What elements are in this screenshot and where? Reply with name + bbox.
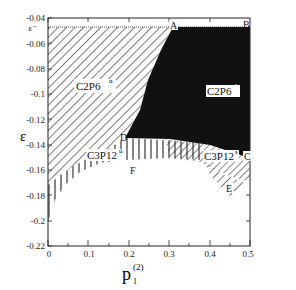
svg-text:-0.12: -0.12 [26, 115, 45, 125]
svg-text:-0.06: -0.06 [26, 39, 45, 49]
svg-text:0.4: 0.4 [204, 249, 216, 259]
svg-text:p: p [122, 264, 131, 284]
svg-text:-0.04: -0.04 [26, 13, 45, 23]
svg-text:(2): (2) [133, 262, 144, 272]
svg-text:-0.1: -0.1 [31, 89, 45, 99]
svg-text:0.2: 0.2 [123, 249, 134, 259]
svg-text:-0.2: -0.2 [31, 216, 45, 226]
svg-text:-0.22: -0.22 [26, 241, 45, 251]
svg-text:E: E [226, 183, 232, 194]
region-label-c3p12u: C3P12 u [86, 147, 123, 161]
region-label-c2p6u: C2P6 u [74, 77, 116, 93]
svg-text:-0.16: -0.16 [26, 165, 45, 175]
svg-text:1: 1 [133, 277, 137, 286]
svg-text:F: F [130, 165, 136, 176]
svg-text:C2P6: C2P6 [207, 85, 232, 97]
svg-text:u: u [109, 77, 113, 85]
x-tick-labels: 0 0.1 0.2 0.3 0.4 0.5 [47, 249, 254, 259]
region-label-c3p12s: C3P12 s [203, 148, 239, 162]
y-axis-label: ε [20, 128, 26, 144]
svg-text:-0.08: -0.08 [26, 64, 45, 74]
svg-text:s: s [235, 148, 238, 156]
svg-text:0: 0 [47, 249, 52, 259]
svg-text:C: C [244, 151, 251, 162]
epsilon-minus-label: ε⁻ [28, 23, 37, 33]
svg-text:C3P12: C3P12 [204, 150, 234, 162]
svg-text:-0.14: -0.14 [26, 140, 45, 150]
svg-text:-0.18: -0.18 [26, 191, 45, 201]
svg-text:A: A [170, 20, 178, 31]
y-tick-labels: -0.04 -0.06 -0.08 -0.1 -0.12 -0.14 -0.16… [26, 13, 45, 251]
svg-text:u: u [119, 147, 123, 155]
phase-diagram: -0.04 -0.06 -0.08 -0.1 -0.12 -0.14 -0.16… [0, 0, 296, 290]
svg-text:C2P6: C2P6 [76, 80, 101, 92]
svg-text:0.1: 0.1 [83, 249, 94, 259]
svg-text:0.3: 0.3 [163, 249, 175, 259]
x-axis-label: p 1 (2) [122, 262, 144, 286]
region-label-c2p6s: C2P6 s [206, 82, 240, 97]
svg-text:C3P12: C3P12 [87, 149, 117, 161]
svg-text:0.5: 0.5 [242, 249, 254, 259]
svg-text:D: D [120, 132, 127, 143]
svg-text:B: B [243, 19, 250, 30]
